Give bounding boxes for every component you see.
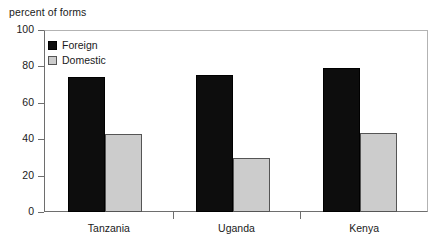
y-axis-tick-mark	[38, 176, 44, 177]
y-axis-tick-label: 100	[16, 23, 34, 35]
bar-kenya-foreign	[323, 68, 360, 212]
chart-legend: ForeignDomestic	[48, 38, 106, 68]
bar-tanzania-domestic	[105, 134, 142, 212]
legend-swatch-foreign	[48, 41, 57, 50]
x-axis-label-uganda: Uganda	[218, 222, 255, 234]
bar-uganda-foreign	[196, 75, 233, 212]
bar-uganda-domestic	[233, 158, 270, 212]
y-axis-tick-label: 20	[22, 169, 34, 181]
chart-title: percent of forms	[9, 6, 86, 18]
legend-label: Foreign	[62, 39, 98, 51]
legend-item-domestic: Domestic	[48, 53, 106, 67]
legend-item-foreign: Foreign	[48, 38, 106, 52]
x-axis-label-kenya: Kenya	[349, 222, 379, 234]
y-axis-tick-label: 60	[22, 96, 34, 108]
y-axis-tick-mark	[38, 139, 44, 140]
y-axis-tick-label: 0	[28, 205, 34, 217]
y-axis-tick-label: 80	[22, 59, 34, 71]
x-axis-label-tanzania: Tanzania	[88, 222, 130, 234]
legend-label: Domestic	[62, 54, 106, 66]
y-axis-tick-mark	[38, 66, 44, 67]
y-axis-tick-mark	[38, 212, 44, 213]
bar-tanzania-foreign	[68, 77, 105, 212]
x-axis-separator	[300, 212, 301, 219]
legend-swatch-domestic	[48, 56, 57, 65]
bar-chart: percent of forms 020406080100 TanzaniaUg…	[0, 0, 444, 247]
bar-kenya-domestic	[360, 133, 397, 212]
x-axis-separator	[173, 212, 174, 219]
y-axis-tick-mark	[38, 30, 44, 31]
y-axis-tick-label: 40	[22, 132, 34, 144]
y-axis-tick-mark	[38, 103, 44, 104]
